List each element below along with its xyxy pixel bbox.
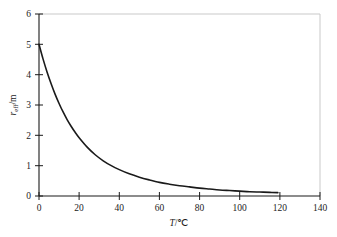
x-tick-label: 0 (37, 203, 42, 213)
svg-text:reff/m: reff/m (8, 94, 19, 115)
chart-canvas: 0 1 2 3 4 5 6 0 20 40 60 80 100 120 140 … (0, 0, 337, 237)
x-axis-tick-labels: 0 20 40 60 80 100 120 140 (37, 203, 328, 213)
y-tick-label: 2 (26, 131, 31, 141)
y-tick-label: 1 (26, 161, 31, 171)
x-tick-label: 80 (195, 203, 205, 213)
x-tick-label: 20 (74, 203, 84, 213)
x-tick-label: 120 (273, 203, 288, 213)
y-tick-label: 3 (26, 100, 31, 110)
y-tick-label: 6 (26, 9, 31, 19)
y-axis-title: reff/m (8, 94, 19, 115)
x-axis-title-unit: /℃ (175, 218, 189, 228)
x-tick-label: 100 (233, 203, 248, 213)
x-tick-label: 140 (313, 203, 328, 213)
x-axis-title: T/℃ (170, 218, 189, 228)
y-tick-label: 5 (26, 40, 31, 50)
y-tick-label: 0 (26, 191, 31, 201)
x-tick-label: 40 (115, 203, 125, 213)
y-tick-label: 4 (26, 70, 31, 80)
chart-figure: 0 1 2 3 4 5 6 0 20 40 60 80 100 120 140 … (0, 0, 337, 237)
y-axis-title-unit: /m (8, 94, 18, 105)
x-tick-label: 60 (155, 203, 165, 213)
plot-background (39, 14, 320, 196)
svg-text:T/℃: T/℃ (170, 218, 189, 228)
y-axis-tick-labels: 0 1 2 3 4 5 6 (26, 9, 31, 201)
